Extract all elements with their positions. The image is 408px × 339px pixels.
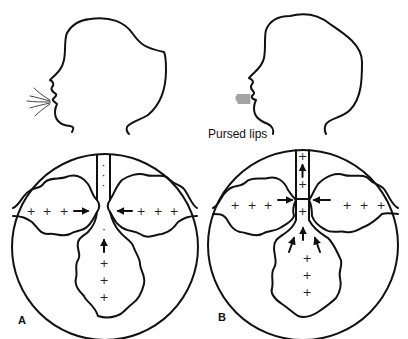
airway-dot: · [102,179,106,192]
svg-text:+: + [342,199,351,212]
svg-text:+: + [42,205,51,218]
arrow-up-right-icon [289,238,294,252]
diagram-canvas: · · · + + + + + + + + + · [0,0,408,339]
panel-a: · · · + + + + + + + + + · [12,18,198,339]
trachea-a: · · · [97,155,110,200]
svg-text:+: + [99,274,108,287]
svg-text:+: + [136,205,145,218]
svg-text:+: + [59,205,68,218]
svg-text:+: + [263,199,272,212]
right-alveolus-a [108,174,197,237]
svg-text:+: + [298,150,307,163]
svg-text:+: + [302,252,311,265]
svg-text:+: + [169,205,178,218]
svg-text:+: + [247,199,256,212]
svg-text:+: + [302,269,311,282]
svg-text:+: + [26,205,35,218]
panel-label-a: A [18,314,26,326]
svg-text:+: + [359,199,368,212]
svg-text:+: + [298,205,307,218]
pursed-lips-label: Pursed lips [208,127,267,141]
svg-text:+: + [99,291,108,304]
svg-text:+: + [298,178,307,191]
svg-text:+: + [302,286,311,299]
svg-text:+: + [99,257,108,270]
panel-b: + + + + + + + + + + + + [208,14,398,339]
exhaled-air-lines-a [27,88,50,116]
svg-text:+: + [230,199,239,212]
alveolar-pressure-markers-a: + + + + + + + + + · [26,205,178,304]
arrow-up-left-icon [315,238,320,252]
head-outline-a [50,18,166,134]
head-outline-b [249,14,362,134]
exhaled-air-lines-b [236,95,250,103]
svg-text:+: + [376,199,385,212]
panel-label-b: B [218,311,226,323]
trachea-b: + + + [296,150,309,220]
svg-text:+: + [153,205,162,218]
airway-dot: · [102,223,106,236]
